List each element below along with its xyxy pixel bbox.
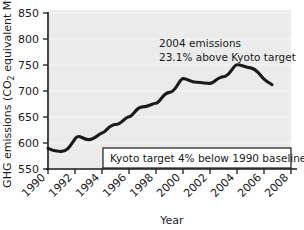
x-tick-label-2002: 2002	[181, 171, 210, 200]
y-axis-title: GHG emissions (CO2 equivalent Mt)	[1, 0, 16, 188]
kyoto-target-box-text: Kyoto target 4% below 1990 baseline	[110, 152, 304, 164]
ghg-emissions-line-chart: 850 800 750 700 650 600 550 1990 1992 19…	[0, 0, 304, 230]
y-tick-label-650: 650	[18, 111, 39, 124]
y-tick-label-700: 700	[18, 85, 39, 98]
x-tick-label-2006: 2006	[235, 171, 264, 200]
x-tick-label-1996: 1996	[100, 171, 129, 200]
x-tick-label-2008: 2008	[262, 171, 291, 200]
y-tick-label-800: 800	[18, 33, 39, 46]
y-tick-label-750: 750	[18, 59, 39, 72]
emissions-callout-line1: 2004 emissions	[159, 37, 241, 49]
x-tick-label-1994: 1994	[73, 171, 102, 200]
chart-figure: 850 800 750 700 650 600 550 1990 1992 19…	[0, 0, 304, 230]
y-axis-title-suffix: equivalent Mt)	[1, 0, 14, 75]
x-tick-label-1992: 1992	[46, 171, 75, 200]
x-tick-label-2004: 2004	[208, 171, 237, 200]
x-axis-title: Year	[159, 214, 184, 227]
y-axis-title-prefix: GHG emissions (CO	[1, 80, 14, 188]
y-tick-label-850: 850	[18, 7, 39, 20]
emissions-callout-line2: 23.1% above Kyoto target	[159, 51, 296, 63]
y-tick-label-600: 600	[18, 137, 39, 150]
plot-background	[48, 10, 291, 169]
x-tick-label-1998: 1998	[127, 171, 156, 200]
x-tick-label-2000: 2000	[154, 171, 183, 200]
